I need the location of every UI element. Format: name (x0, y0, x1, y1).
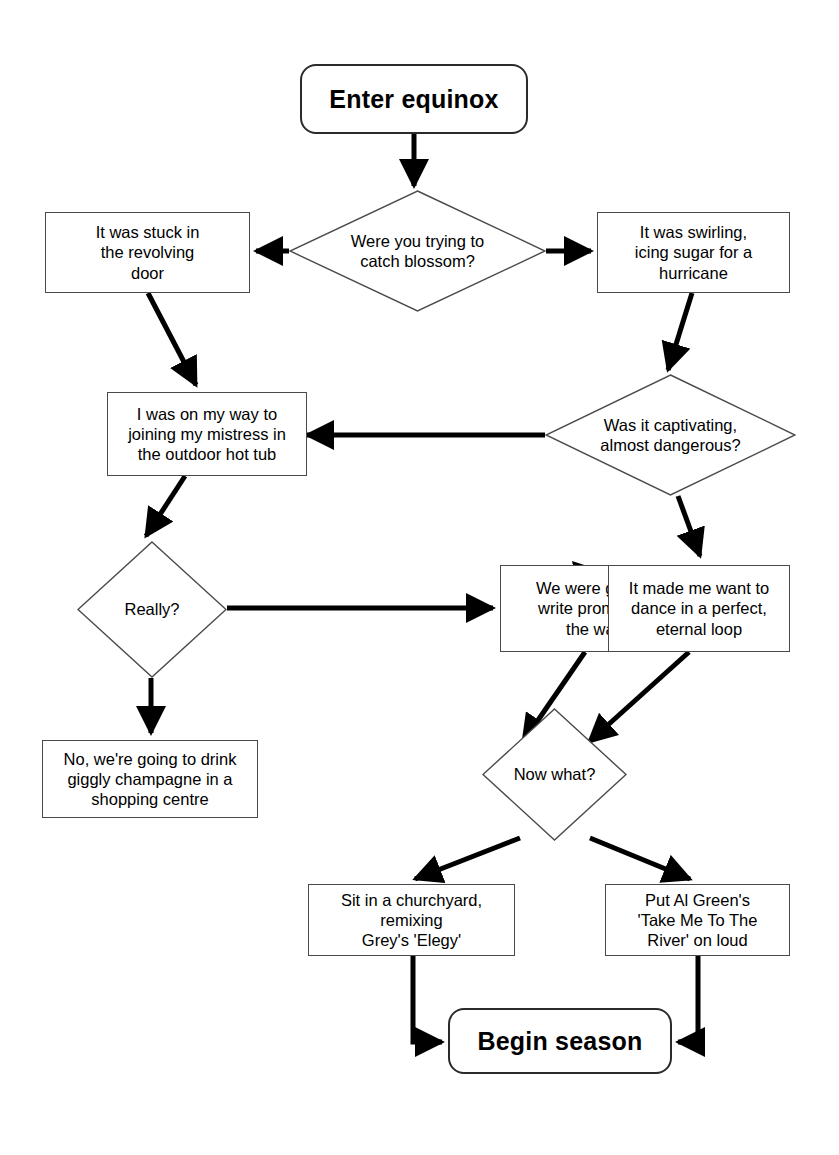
node-al-green-take-me-to-the-river[interactable]: Put Al Green's 'Take Me To The River' on… (605, 884, 790, 956)
edge-revolving-to-hottub (148, 293, 196, 385)
node-decision-really[interactable]: Really? (77, 541, 227, 678)
node-label: Now what? (514, 764, 596, 784)
edge-swirling-to-d2 (668, 293, 692, 370)
node-churchyard-greys-elegy[interactable]: Sit in a churchyard, remixing Grey's 'El… (308, 884, 515, 956)
node-end-begin-season[interactable]: Begin season (448, 1008, 672, 1074)
edge-algreen-to-end (678, 956, 698, 1042)
node-label: Were you trying to catch blossom? (351, 231, 485, 271)
node-label: It was swirling, icing sugar for a hurri… (635, 222, 752, 282)
node-label: No, we're going to drink giggly champagn… (64, 749, 237, 809)
node-label: Was it captivating, almost dangerous? (600, 415, 740, 455)
node-start-enter-equinox[interactable]: Enter equinox (300, 64, 528, 134)
edge-d2-to-dance (678, 496, 700, 556)
node-label: I was on my way to joining my mistress i… (128, 404, 286, 464)
node-dance-eternal-loop[interactable]: It made me want to dance in a perfect, e… (608, 565, 790, 652)
edge-hottub-to-d3 (146, 476, 185, 536)
node-giggly-champagne[interactable]: No, we're going to drink giggly champagn… (42, 740, 258, 818)
node-label: Enter equinox (329, 84, 498, 115)
node-revolving-door[interactable]: It was stuck in the revolving door (45, 212, 250, 293)
node-label: It was stuck in the revolving door (96, 222, 200, 282)
edge-d4-to-algreen (590, 838, 690, 879)
node-label: Sit in a churchyard, remixing Grey's 'El… (341, 890, 482, 950)
node-label: Put Al Green's 'Take Me To The River' on… (638, 890, 758, 950)
node-decision-now-what[interactable]: Now what? (482, 708, 627, 841)
node-outdoor-hot-tub[interactable]: I was on my way to joining my mistress i… (107, 392, 307, 476)
edge-churchyard-to-end (413, 956, 442, 1042)
node-label: It made me want to dance in a perfect, e… (629, 578, 769, 638)
node-swirling-icing-sugar[interactable]: It was swirling, icing sugar for a hurri… (597, 212, 790, 293)
flowchart-canvas: Enter equinox Were you trying to catch b… (0, 0, 839, 1155)
node-decision-captivating[interactable]: Was it captivating, almost dangerous? (545, 374, 796, 496)
node-label: Really? (124, 599, 179, 619)
node-label: Begin season (478, 1026, 643, 1057)
edge-d4-to-churchyard (415, 838, 520, 879)
node-decision-catch-blossom[interactable]: Were you trying to catch blossom? (289, 190, 546, 312)
